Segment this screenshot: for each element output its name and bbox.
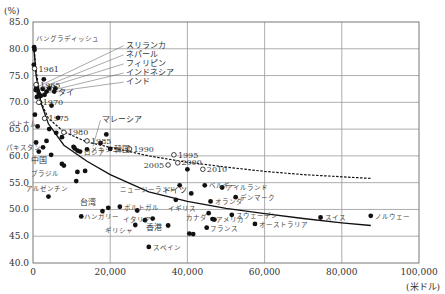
point-label: ベトナム — [9, 120, 37, 128]
country-point — [33, 112, 38, 117]
point-label: 1975 — [49, 114, 69, 123]
point-label: ポルトガル — [124, 203, 159, 212]
country-point — [146, 245, 151, 250]
country-point — [83, 168, 88, 173]
country-point — [54, 130, 59, 135]
country-point — [44, 138, 49, 143]
country-point — [47, 127, 52, 132]
callout-label: フィリピン — [126, 59, 166, 68]
country-point — [78, 149, 83, 154]
point-labels: スリランカネパールフィリピンインドネシアインドマレーシアバングラディッシュタイベ… — [6, 34, 410, 252]
country-point — [42, 92, 47, 97]
y-tick-label: 80.0 — [9, 44, 29, 54]
year-point — [175, 161, 180, 166]
point-label: ドイツ — [163, 186, 187, 195]
year-point — [62, 130, 67, 135]
x-tick-label: 100,000 — [400, 267, 437, 277]
point-label: オランダ — [215, 197, 243, 206]
country-point — [46, 194, 51, 199]
point-label: 2010 — [207, 165, 227, 174]
country-point — [74, 179, 79, 184]
year-point — [32, 66, 37, 71]
point-label: スウェーデン — [236, 211, 278, 220]
year-point — [42, 116, 47, 121]
country-point — [185, 167, 190, 172]
x-axis-unit-label: (米ドル) — [406, 281, 440, 292]
point-label: ノルウェー — [375, 213, 410, 221]
point-label: 1990 — [134, 145, 154, 154]
country-point — [61, 163, 66, 168]
point-label: タイ — [58, 88, 74, 97]
country-point — [106, 205, 111, 210]
country-point — [318, 215, 323, 220]
point-label: スペイン — [153, 244, 181, 252]
year-point — [166, 163, 171, 168]
point-label: バングラディッシュ — [36, 34, 99, 43]
y-tick-label: 60.0 — [9, 151, 29, 161]
point-label: オーストラリア — [259, 221, 308, 229]
country-point — [204, 225, 209, 230]
y-tick-label: 85.0 — [9, 17, 29, 27]
callout-label: マレーシア — [102, 115, 142, 124]
point-label: 韓国 — [114, 144, 130, 154]
point-label: 2005 — [144, 161, 164, 170]
point-label: デンマーク — [240, 193, 275, 202]
country-point — [166, 223, 171, 228]
year-point — [36, 100, 41, 105]
callout-label: インドネシア — [126, 68, 174, 77]
x-tick-label: 60,000 — [249, 267, 281, 277]
point-label: カナダ — [186, 213, 207, 222]
y-tick-label: 45.0 — [9, 231, 29, 241]
scatter-chart: 020,00040,00060,00080,000100,00040.045.0… — [0, 0, 445, 294]
country-point — [32, 47, 37, 52]
country-point — [206, 211, 211, 216]
country-point — [189, 191, 194, 196]
year-point — [85, 139, 90, 144]
point-label: イギリス — [168, 205, 196, 213]
country-point — [117, 204, 122, 209]
point-label: アルゼンチン — [26, 184, 68, 193]
point-label: 1961 — [39, 65, 59, 74]
x-tick-label: 80,000 — [326, 267, 358, 277]
point-label: アイルランド — [226, 184, 268, 192]
point-label: スイス — [325, 214, 346, 222]
x-tick-label: 0 — [30, 267, 36, 277]
x-tick-label: 20,000 — [94, 267, 126, 277]
country-point — [191, 232, 196, 237]
year-point — [34, 82, 39, 87]
callout-label: インド — [126, 77, 150, 86]
point-label: 1980 — [68, 128, 88, 137]
x-tick-label: 40,000 — [172, 267, 204, 277]
y-tick-label: 70.0 — [9, 97, 29, 107]
point-label: ハンガリー — [84, 212, 119, 221]
country-point — [253, 222, 258, 227]
country-point — [34, 95, 39, 100]
country-point — [60, 135, 65, 140]
country-point — [41, 145, 46, 150]
year-point — [172, 153, 177, 158]
y-axis-unit-label: (%) — [4, 6, 20, 16]
point-label: パキスタン — [6, 143, 41, 152]
point-label: 香港 — [146, 222, 162, 232]
point-label: 1965 — [40, 81, 60, 90]
trend-dashed — [34, 46, 371, 178]
country-point — [202, 183, 207, 188]
point-label: 1985 — [91, 137, 111, 146]
y-tick-label: 75.0 — [9, 71, 29, 81]
point-label: 1970 — [43, 98, 63, 107]
country-point — [150, 216, 155, 221]
country-point — [173, 197, 178, 202]
point-label: ギリシャ — [105, 227, 133, 235]
country-point — [79, 214, 84, 219]
point-label: フランス — [210, 225, 238, 233]
callout-label: スリランカ — [126, 41, 166, 50]
point-label: ブラジル — [31, 169, 59, 178]
y-tick-label: 50.0 — [9, 204, 29, 214]
country-point — [208, 199, 213, 204]
point-label: 1995 — [178, 151, 198, 160]
country-point — [49, 152, 54, 157]
country-point — [75, 170, 80, 175]
country-point — [368, 213, 373, 218]
y-tick-label: 40.0 — [9, 258, 29, 268]
year-point — [201, 167, 206, 172]
